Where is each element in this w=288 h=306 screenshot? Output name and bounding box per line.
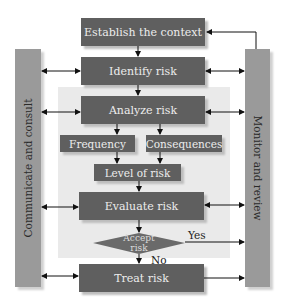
accept-risk-label: Accept risk (119, 233, 159, 253)
no-label: No (151, 254, 167, 266)
connector-arrows (0, 0, 288, 306)
accept-risk-line1: Accept (119, 233, 159, 243)
accept-risk-line2: risk (119, 243, 159, 253)
yes-label: Yes (188, 229, 206, 241)
